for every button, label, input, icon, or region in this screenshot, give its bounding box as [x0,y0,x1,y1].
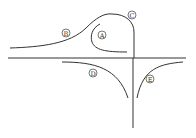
curve-a [91,24,127,52]
svg-text:D: D [90,70,95,78]
label-e: E [146,75,154,84]
svg-text:C: C [130,12,135,20]
label-d: D [89,69,97,78]
svg-text:E: E [148,76,153,84]
curve-e [137,62,183,98]
svg-text:B: B [64,30,69,38]
curve-d [62,62,128,98]
label-b: B [62,29,70,38]
label-c: C [128,11,136,20]
diagram-canvas: A B C D E [0,0,196,138]
svg-text:A: A [99,32,105,40]
label-a: A [98,31,106,40]
